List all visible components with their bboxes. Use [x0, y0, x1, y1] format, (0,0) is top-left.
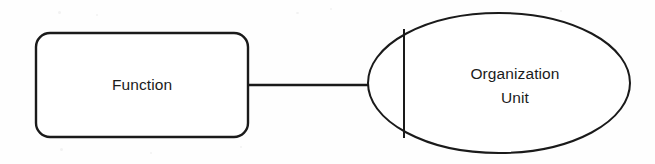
node-organization-unit[interactable]: Organization Unit [368, 13, 630, 153]
organization-unit-label-line1: Organization [470, 65, 559, 82]
function-label: Function [112, 76, 172, 93]
organization-unit-ellipse [368, 13, 630, 153]
diagram-canvas: Function Organization Unit [0, 0, 655, 164]
organization-unit-label-line2: Unit [501, 89, 530, 106]
diagram-graphic: Function Organization Unit [0, 0, 655, 164]
node-function[interactable]: Function [36, 33, 248, 137]
